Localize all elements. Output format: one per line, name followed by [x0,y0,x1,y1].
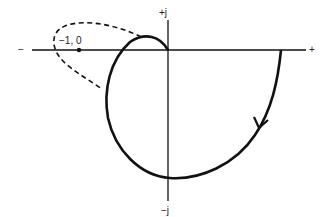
solid-contour [106,36,281,178]
dashed-contour [54,23,141,89]
real-negative-label: − [18,44,24,55]
imag-negative-label: −j [161,205,169,216]
critical-point-label: −1, 0 [59,35,82,46]
critical-point-marker [77,48,81,52]
nyquist-diagram: − + +j −j −1, 0 [0,0,336,217]
real-positive-label: + [309,44,315,55]
imag-positive-label: +j [159,7,167,18]
